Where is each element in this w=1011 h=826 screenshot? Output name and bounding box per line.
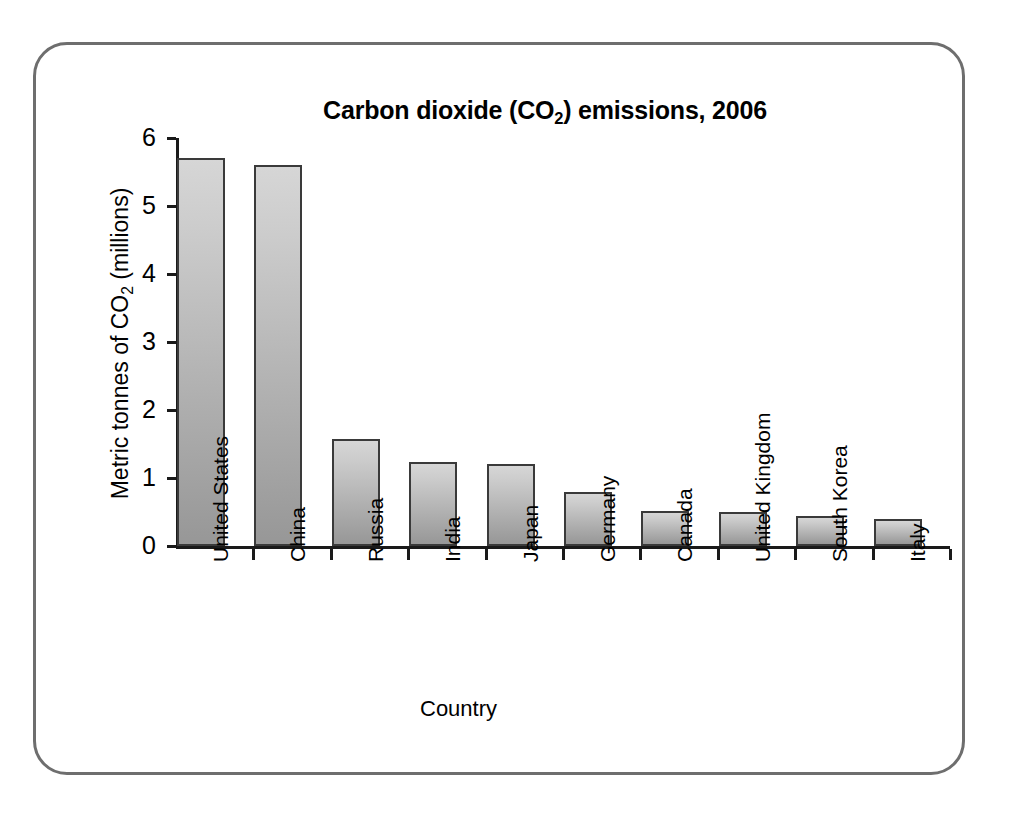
x-tick-mark [949,549,952,560]
bar-chart: Carbon dioxide (CO2) emissions, 2006 Met… [0,0,1011,826]
y-tick-label: 0 [110,533,156,558]
y-tick-mark [167,137,176,140]
x-tick-mark [407,549,410,560]
chart-title-subscript: 2 [554,109,563,127]
chart-title-after: ) emissions, 2006 [563,96,767,124]
y-tick-label: 2 [110,397,156,422]
x-category-label: South Korea [828,445,852,562]
chart-title-before: Carbon dioxide (CO [323,96,554,124]
x-axis-title: Country [420,696,660,722]
y-tick-mark [167,205,176,208]
x-tick-mark [252,549,255,560]
x-tick-mark [717,549,720,560]
x-category-label: Germany [596,476,620,562]
x-category-label: China [286,507,310,562]
x-category-label: Canada [673,488,697,562]
x-category-label: Russia [364,498,388,562]
x-tick-mark [872,549,875,560]
y-tick-label: 5 [110,193,156,218]
x-category-label: Italy [906,523,930,562]
x-tick-mark [639,549,642,560]
x-category-label: United States [209,436,233,562]
y-tick-mark [167,409,176,412]
x-tick-mark [485,549,488,560]
x-tick-mark [330,549,333,560]
x-category-label: Japan [519,505,543,562]
x-category-label: United Kingdom [751,413,775,562]
chart-title: Carbon dioxide (CO2) emissions, 2006 [140,96,950,125]
y-tick-mark [167,477,176,480]
bar [254,165,302,546]
y-axis-title-subscript: 2 [119,286,136,295]
x-category-label: India [441,516,465,562]
y-tick-label: 1 [110,465,156,490]
y-tick-mark [167,545,176,548]
x-tick-mark [794,549,797,560]
y-tick-mark [167,273,176,276]
y-tick-mark [167,341,176,344]
y-tick-label: 3 [110,329,156,354]
x-tick-mark [562,549,565,560]
y-tick-label: 4 [110,261,156,286]
y-tick-label: 6 [110,125,156,150]
